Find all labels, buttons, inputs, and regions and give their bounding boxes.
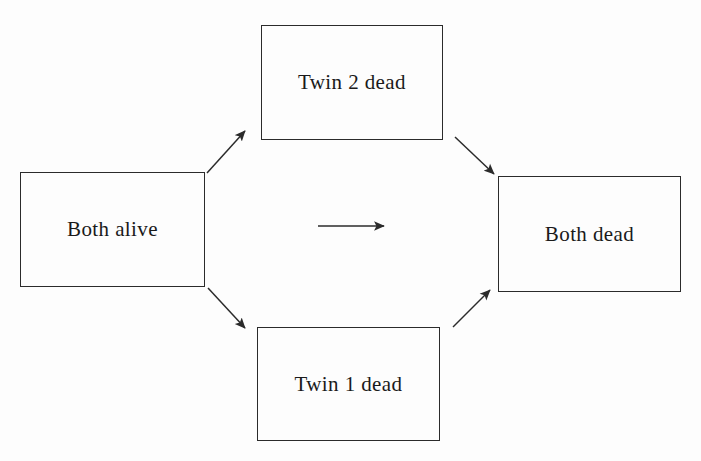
node-twin-2-dead: Twin 2 dead	[261, 25, 443, 140]
edge-both-alive-to-twin-1-dead	[208, 288, 245, 328]
node-both-dead-label: Both dead	[545, 224, 634, 245]
node-twin-2-dead-label: Twin 2 dead	[298, 72, 406, 93]
node-twin-1-dead: Twin 1 dead	[257, 327, 440, 441]
node-both-alive: Both alive	[20, 172, 205, 287]
edge-twin-2-dead-to-both-dead	[455, 137, 494, 174]
node-both-alive-label: Both alive	[67, 219, 158, 240]
node-both-dead: Both dead	[498, 176, 681, 292]
diagram-canvas: Both alive Twin 2 dead Twin 1 dead Both …	[0, 0, 701, 461]
node-twin-1-dead-label: Twin 1 dead	[295, 374, 403, 395]
edge-both-alive-to-twin-2-dead	[207, 131, 245, 173]
edge-twin-1-dead-to-both-dead	[453, 290, 490, 327]
